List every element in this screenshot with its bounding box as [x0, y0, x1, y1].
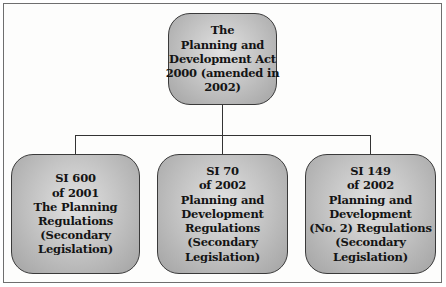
connector-root-down	[222, 104, 223, 136]
node-text-line: Development	[181, 207, 263, 221]
node-text-line: of 2002	[199, 178, 246, 192]
node-si-149-2002: SI 149 of 2002 Planning and Development …	[305, 154, 436, 274]
node-text-line: Legislation)	[185, 250, 260, 264]
node-text-line: Development Act	[169, 52, 276, 66]
node-text-line: (Secondary	[335, 235, 405, 249]
connector-right-down	[370, 135, 371, 154]
node-text-line: The	[211, 23, 235, 37]
node-text-line: Development	[329, 207, 411, 221]
node-si-70-2002: SI 70 of 2002 Planning and Development R…	[157, 154, 288, 274]
node-text-line: 2002)	[204, 80, 240, 94]
connector-left-down	[75, 135, 76, 154]
connector-horizontal	[75, 135, 371, 136]
node-text-line: (No. 2) Regulations	[309, 221, 431, 235]
node-text-line: Planning and	[329, 193, 412, 207]
node-text-line: Legislation)	[333, 250, 408, 264]
node-text-line: Regulations	[185, 221, 260, 235]
node-text-line: Planning and	[181, 38, 264, 52]
node-si-600-2001: SI 600 of 2001 The Planning Regulations …	[11, 154, 140, 274]
node-text-line: SI 70	[206, 164, 239, 178]
node-text-line: of 2002	[347, 178, 394, 192]
node-text-line: SI 149	[350, 164, 391, 178]
node-text-line: Regulations	[38, 214, 113, 228]
node-text-line: (Secondary	[187, 235, 257, 249]
node-text-line: Planning and	[181, 193, 264, 207]
node-text-line: 2000 (amended in	[166, 66, 280, 80]
node-text-line: (Secondary	[40, 228, 110, 242]
node-text-line: Legislation)	[38, 242, 113, 256]
node-text-line: The Planning	[34, 200, 118, 214]
node-text-line: of 2001	[52, 186, 99, 200]
connector-middle-down	[222, 135, 223, 154]
node-text-line: SI 600	[55, 171, 96, 185]
node-planning-development-act-2000: The Planning and Development Act 2000 (a…	[168, 13, 277, 105]
